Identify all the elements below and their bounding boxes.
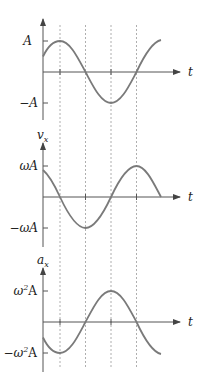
position-t-label: t (188, 65, 193, 79)
velocity-neg-tick-label: −ωA (9, 221, 38, 235)
acceleration-t-label: t (188, 315, 193, 329)
velocity-y-label: vx (37, 128, 49, 144)
velocity-t-label: t (188, 190, 193, 204)
shm-figure: A −A t vx ωA −ωA t ax ω2A −ω2A t (0, 0, 205, 382)
acceleration-neg-tick-label: −ω2A (3, 345, 37, 360)
position-neg-tick-label: −A (19, 96, 38, 110)
phase-guide-lines (60, 25, 137, 367)
velocity-pos-tick-label: ωA (20, 159, 39, 173)
acceleration-pos-tick-label: ω2A (13, 283, 37, 298)
acceleration-y-label: ax (37, 253, 49, 269)
position-pos-tick-label: A (22, 34, 32, 48)
acceleration-graph: ax ω2A −ω2A t (3, 253, 193, 372)
velocity-graph: vx ωA −ωA t (9, 128, 193, 247)
position-graph: A −A t (19, 19, 193, 120)
